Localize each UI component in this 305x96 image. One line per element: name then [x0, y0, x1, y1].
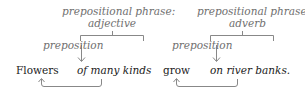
right-phrase-type-label: prepositional phrase:: [197, 6, 305, 17]
right-modifies-arrow: [177, 79, 238, 87]
left-prepositional-phrase: of many kinds: [77, 65, 151, 76]
left-phrase-type-label: prepositional phrase:: [62, 6, 175, 17]
right-prepositional-phrase: on river banks.: [210, 65, 290, 76]
right-modified-word: grow: [163, 65, 190, 76]
left-preposition-label: preposition: [43, 40, 103, 51]
right-phrase-function-label: adverb: [229, 18, 266, 29]
right-preposition-label: preposition: [172, 40, 232, 51]
left-phrase-function-label: adjective: [88, 18, 136, 29]
left-modifies-arrow: [42, 79, 102, 87]
left-modified-word: Flowers: [16, 65, 59, 76]
